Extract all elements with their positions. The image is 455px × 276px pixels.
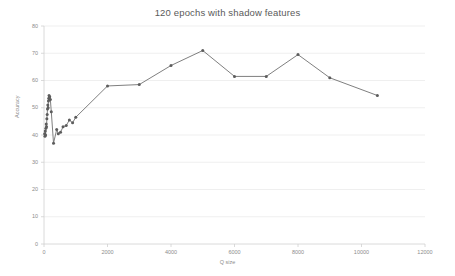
x-tick-label: 12000 — [407, 249, 443, 255]
data-point-marker — [62, 125, 65, 128]
data-point-marker — [233, 75, 236, 78]
data-point-marker — [74, 116, 77, 119]
data-point-marker — [48, 95, 51, 98]
y-tick-label: 70 — [22, 50, 38, 56]
y-tick-label: 50 — [22, 104, 38, 110]
data-point-marker — [297, 53, 300, 56]
data-point-marker — [265, 75, 268, 78]
data-point-marker — [106, 84, 109, 87]
y-tick-label: 40 — [22, 132, 38, 138]
y-axis-title: Accuracy — [14, 95, 20, 118]
x-tick-label: 6000 — [217, 249, 253, 255]
data-point-marker — [50, 110, 53, 113]
y-tick-label: 30 — [22, 159, 38, 165]
x-tick-label: 2000 — [90, 249, 126, 255]
data-point-marker — [71, 121, 74, 124]
data-point-marker — [59, 131, 62, 134]
data-point-marker — [46, 104, 49, 107]
data-point-marker — [55, 128, 58, 131]
x-tick-label: 8000 — [280, 249, 316, 255]
y-tick-label: 60 — [22, 77, 38, 83]
data-point-marker — [45, 123, 48, 126]
data-point-marker — [45, 125, 48, 128]
data-point-marker — [49, 98, 52, 101]
data-point-marker — [201, 49, 204, 52]
chart-container: 120 epochs with shadow features 01020304… — [0, 0, 455, 276]
data-point-marker — [44, 129, 47, 132]
line-chart-plot — [0, 0, 455, 276]
y-tick-label: 0 — [22, 241, 38, 247]
data-point-marker — [52, 142, 55, 145]
data-point-marker — [68, 119, 71, 122]
y-tick-label: 10 — [22, 213, 38, 219]
data-point-marker — [65, 124, 68, 127]
series-line — [45, 51, 378, 144]
data-point-marker — [44, 134, 47, 137]
data-point-marker — [47, 106, 50, 109]
x-tick-label: 10000 — [344, 249, 380, 255]
data-point-marker — [376, 94, 379, 97]
data-point-marker — [170, 64, 173, 67]
data-point-marker — [328, 76, 331, 79]
data-point-marker — [138, 83, 141, 86]
data-point-marker — [45, 117, 48, 120]
x-tick-label: 4000 — [153, 249, 189, 255]
data-point-marker — [46, 113, 49, 116]
y-tick-label: 20 — [22, 186, 38, 192]
x-axis-title: Q size — [0, 259, 455, 265]
x-tick-label: 0 — [26, 249, 62, 255]
y-tick-label: 80 — [22, 23, 38, 29]
